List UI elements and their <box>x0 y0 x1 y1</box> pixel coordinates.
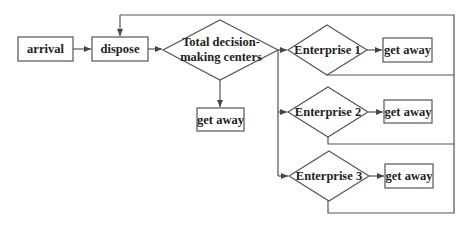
node-enterprise-1: Enterprise 1 <box>288 25 367 75</box>
node-arrival: arrival <box>18 37 73 61</box>
node-label: Enterprise 3 <box>296 169 362 183</box>
node-get-away-3: get away <box>385 164 433 188</box>
node-get-away-center: get away <box>197 108 245 131</box>
node-label-line1: Total decision- <box>182 35 260 49</box>
node-label: dispose <box>101 42 140 56</box>
node-total-decision-making-centers: Total decision- making centers <box>163 20 278 80</box>
node-label: get away <box>385 105 433 119</box>
flowchart-canvas: arrival dispose Total decision- making c… <box>0 0 473 226</box>
node-label: arrival <box>27 42 64 56</box>
node-enterprise-3: Enterprise 3 <box>289 151 369 201</box>
node-label: Enterprise 2 <box>295 105 361 119</box>
node-label: get away <box>384 43 432 57</box>
node-label: get away <box>197 113 245 127</box>
node-dispose: dispose <box>92 37 148 61</box>
node-get-away-2: get away <box>384 100 432 123</box>
node-label-line2: making centers <box>180 50 262 64</box>
node-label: Enterprise 1 <box>294 43 360 57</box>
node-label: get away <box>386 169 434 183</box>
node-enterprise-2: Enterprise 2 <box>288 87 368 137</box>
node-get-away-1: get away <box>383 38 432 62</box>
